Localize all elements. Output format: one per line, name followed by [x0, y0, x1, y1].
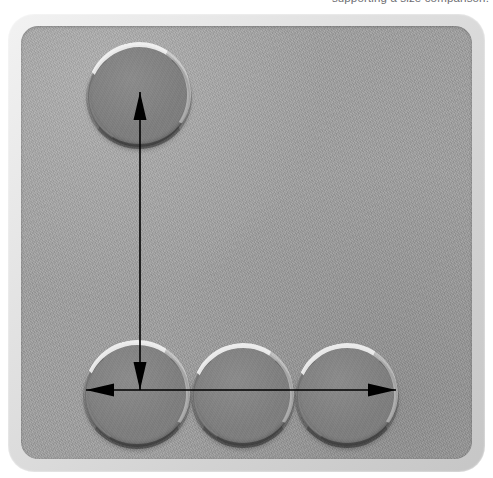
figure-panel: [8, 14, 485, 472]
disc-bottom-mid-body: [193, 346, 293, 446]
disc-bottom-mid: [193, 346, 293, 446]
disc-bottom-left-body: [85, 343, 189, 447]
disc-bottom-right: [297, 346, 397, 446]
caption-strip: supporting a size comparison.: [0, 0, 493, 11]
disc-top: [88, 45, 190, 147]
disc-bottom-left: [85, 343, 189, 447]
disc-bottom-right-body: [297, 346, 397, 446]
disc-top-body: [88, 45, 190, 147]
figure-caption: supporting a size comparison.: [332, 0, 489, 4]
